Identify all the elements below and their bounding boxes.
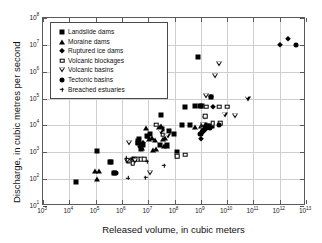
marker-inner <box>148 170 152 173</box>
data-point <box>143 126 149 131</box>
y-tick-right <box>300 125 304 126</box>
legend-item-volcanic-blockages[interactable]: Volcanic blockages <box>55 56 162 66</box>
legend-marker-icon <box>60 87 64 91</box>
legend-item-volcanic-basins[interactable]: Volcanic basins <box>55 65 162 75</box>
y-tick-label: 101 <box>19 202 39 209</box>
y-tick-right <box>300 72 304 73</box>
legend-marker-icon <box>60 30 65 35</box>
marker-inner <box>158 129 162 132</box>
data-point <box>183 153 188 158</box>
x-tick <box>69 200 70 204</box>
legend-item-label: Volcanic blockages <box>68 56 124 66</box>
legend-item-landslide-dams[interactable]: Landslide dams <box>55 27 162 37</box>
data-point <box>109 159 114 164</box>
y-tick <box>43 152 47 153</box>
legend-marker-icon <box>55 46 68 56</box>
legend-marker-icon <box>59 48 65 54</box>
x-tick <box>96 200 97 204</box>
marker-inner <box>133 158 137 161</box>
data-point <box>132 158 138 163</box>
marker-inner <box>204 94 208 97</box>
data-point <box>124 156 128 160</box>
x-tick <box>227 200 228 204</box>
y-tick <box>43 18 47 19</box>
y-tick-label: 102 <box>19 175 39 182</box>
y-tick <box>43 179 47 180</box>
x-tick-label: 106 <box>116 207 126 214</box>
legend-marker-icon <box>55 37 68 47</box>
legend-item-label: Ruptured ice dams <box>68 46 123 56</box>
y-tick-label: 106 <box>19 67 39 74</box>
y-tick <box>43 99 47 100</box>
x-tick-top <box>253 18 254 22</box>
x-tick-label: 107 <box>142 207 152 214</box>
legend-item-label: Volcanic basins <box>68 65 113 75</box>
legend-item-moraine-dams[interactable]: Moraine dams <box>55 37 162 47</box>
y-tick-label: 108 <box>19 14 39 21</box>
y-tick-right <box>300 179 304 180</box>
legend-marker-icon <box>60 77 65 82</box>
x-tick-label: 108 <box>169 207 179 214</box>
x-tick-top <box>175 18 176 22</box>
x-tick-label: 1011 <box>246 207 258 214</box>
x-tick <box>201 200 202 204</box>
data-point <box>162 163 166 167</box>
data-point <box>126 141 132 146</box>
data-point <box>222 112 228 117</box>
marker-inner <box>127 140 131 143</box>
data-point <box>217 104 222 109</box>
x-tick <box>306 200 307 204</box>
data-point <box>277 42 283 48</box>
x-tick <box>280 200 281 204</box>
data-point <box>150 148 156 153</box>
x-tick-label: 1012 <box>273 207 285 214</box>
legend-marker-icon <box>55 65 68 75</box>
y-tick-label: 104 <box>19 121 39 128</box>
x-tick-label: 1010 <box>220 207 232 214</box>
legend-item-ruptured-ice-dams[interactable]: Ruptured ice dams <box>55 46 162 56</box>
data-point <box>245 96 251 101</box>
marker-inner <box>213 73 217 76</box>
y-tick-label: 105 <box>19 94 39 101</box>
x-tick <box>122 200 123 204</box>
y-tick-right <box>300 99 304 100</box>
legend-item-breached-estuaries[interactable]: Breached estuaries <box>55 85 162 95</box>
y-tick <box>43 125 47 126</box>
data-point <box>208 126 213 131</box>
data-point <box>158 129 164 134</box>
data-point <box>180 123 185 128</box>
data-point <box>147 170 153 175</box>
discharge-vs-volume-scatter-figure: Discharge, in cubic metres per second Re… <box>0 0 322 243</box>
data-point <box>145 159 149 163</box>
data-point <box>198 136 204 142</box>
y-tick-label: 103 <box>19 148 39 155</box>
x-tick-top <box>306 18 307 22</box>
legend-marker-icon <box>55 85 68 95</box>
y-tick-right <box>300 45 304 46</box>
x-tick <box>148 200 149 204</box>
legend-marker-icon <box>55 27 68 37</box>
data-point <box>152 138 158 143</box>
x-gridline <box>175 18 176 204</box>
x-tick-label: 1013 <box>299 207 311 214</box>
legend-item-label: Moraine dams <box>68 37 110 47</box>
legend-marker-icon <box>59 68 65 73</box>
legend-marker-icon <box>55 56 68 66</box>
x-tick-label: 109 <box>195 207 205 214</box>
data-point <box>74 179 79 184</box>
x-tick-label: 104 <box>63 207 73 214</box>
x-tick <box>253 200 254 204</box>
data-point <box>203 94 209 99</box>
data-point <box>158 113 163 118</box>
x-gridline <box>227 18 228 204</box>
x-tick-top <box>201 18 202 22</box>
legend-marker-icon <box>55 75 68 85</box>
legend-item-label: Breached estuaries <box>68 85 125 95</box>
data-point <box>216 61 222 66</box>
data-point <box>164 144 170 149</box>
y-tick-right <box>300 18 304 19</box>
legend-marker-icon <box>60 58 65 63</box>
data-point <box>114 171 119 176</box>
data-point <box>285 36 291 42</box>
legend-item-tectonic-basins[interactable]: Tectonic basins <box>55 75 162 85</box>
